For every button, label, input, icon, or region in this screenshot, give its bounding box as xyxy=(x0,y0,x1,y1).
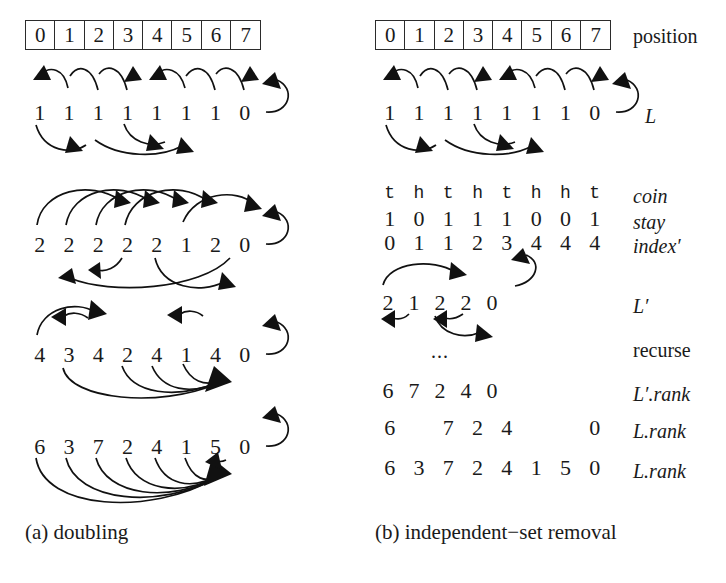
cell-value: 1 xyxy=(171,102,200,124)
label-Lprime: L′ xyxy=(633,296,649,316)
row-L: 1 1 1 1 1 1 1 0 xyxy=(375,100,609,126)
cell-value: 4 xyxy=(142,436,171,458)
position-cell: 6 xyxy=(552,21,581,49)
position-cell: 6 xyxy=(202,21,231,49)
cell-value: 2 xyxy=(142,234,171,256)
cell-value: 1 xyxy=(580,208,609,230)
arrow-group-step0-below xyxy=(36,124,194,154)
cell-value: 4 xyxy=(25,344,54,366)
cell-value: 0 xyxy=(580,417,609,439)
position-cell: 2 xyxy=(435,21,464,49)
cell-value: 1 xyxy=(25,102,54,124)
cell-value: 1 xyxy=(404,232,433,254)
label-coin: coin xyxy=(633,186,667,206)
position-cell: 3 xyxy=(114,21,143,49)
doubling-step-3-row: 6 3 7 2 4 1 5 0 xyxy=(25,434,259,460)
cell-value: 1 xyxy=(113,102,142,124)
cell-value: 0 xyxy=(230,344,259,366)
panel-independent-set-removal: 0 1 2 3 4 5 6 7 position 1 1 1 1 1 1 1 0… xyxy=(363,0,726,583)
cell-value: 5 xyxy=(201,436,230,458)
recurse-ellipsis: ... xyxy=(431,340,449,363)
cell-value: 4 xyxy=(580,232,609,254)
label-L-rank-sparse: L.rank xyxy=(633,421,686,441)
cell-value: 4 xyxy=(492,417,521,439)
cell-value: 3 xyxy=(54,344,83,366)
cell-value: 7 xyxy=(434,417,463,439)
position-cell: 0 xyxy=(376,21,405,49)
cell-value: 0 xyxy=(521,208,550,230)
position-cell: 5 xyxy=(172,21,201,49)
cell-value: 0 xyxy=(551,208,580,230)
cell-value: 2 xyxy=(84,234,113,256)
cell-value: 1 xyxy=(171,436,200,458)
cell-value: 1 xyxy=(375,208,404,230)
cell-value: 2 xyxy=(427,292,453,314)
cell-value: 7 xyxy=(84,436,113,458)
cell-value: 4 xyxy=(492,457,521,479)
label-L: L xyxy=(645,106,656,126)
cell-value: 4 xyxy=(201,344,230,366)
doubling-step-0-row: 1 1 1 1 1 1 1 0 xyxy=(25,100,259,126)
pointer-arrows-a xyxy=(0,0,363,583)
row-Lprime: 2 1 2 2 0 xyxy=(375,290,505,316)
position-strip-b: 0 1 2 3 4 5 6 7 xyxy=(375,20,611,50)
cell-value: 0 xyxy=(479,380,505,402)
position-cell: 4 xyxy=(493,21,522,49)
caption-a: (a) doubling xyxy=(25,520,128,545)
cell-value: 1 xyxy=(201,102,230,124)
cell-value: 7 xyxy=(401,380,427,402)
cell-value: 0 xyxy=(580,102,609,124)
cell-value: 2 xyxy=(54,234,83,256)
position-cell: 4 xyxy=(143,21,172,49)
position-cell: 0 xyxy=(26,21,55,49)
cell-value: 0 xyxy=(230,102,259,124)
row-L-rank-sparse: 6 7 2 4 0 xyxy=(375,415,609,441)
position-cell: 1 xyxy=(55,21,84,49)
cell-value: t xyxy=(434,184,463,202)
cell-value: 2 xyxy=(113,436,142,458)
cell-value: 1 xyxy=(404,102,433,124)
doubling-step-2-row: 4 3 4 2 4 1 4 0 xyxy=(25,342,259,368)
cell-value: 6 xyxy=(375,457,404,479)
cell-value: 1 xyxy=(375,102,404,124)
label-Lprime-rank: L′.rank xyxy=(633,384,690,404)
label-stay: stay xyxy=(633,212,665,232)
cell-value: 1 xyxy=(521,102,550,124)
doubling-step-1-row: 2 2 2 2 2 1 2 0 xyxy=(25,232,259,258)
cell-value: 1 xyxy=(463,102,492,124)
cell-value: 4 xyxy=(551,232,580,254)
cell-value: 1 xyxy=(401,292,427,314)
row-L-rank-full: 6 3 7 2 4 1 5 0 xyxy=(375,455,609,481)
cell-value: 2 xyxy=(375,292,401,314)
cell-value: 1 xyxy=(551,102,580,124)
cell-value: 2 xyxy=(201,234,230,256)
figure-canvas: 0 1 2 3 4 5 6 7 1 1 1 1 1 1 1 0 2 2 2 2 … xyxy=(0,0,726,583)
cell-value: h xyxy=(521,184,550,202)
position-cell: 5 xyxy=(522,21,551,49)
cell-value: 0 xyxy=(230,234,259,256)
cell-value: 6 xyxy=(375,417,404,439)
cell-value: h xyxy=(463,184,492,202)
cell-value: t xyxy=(492,184,521,202)
cell-value: t xyxy=(375,184,404,202)
cell-value: t xyxy=(580,184,609,202)
position-cell: 7 xyxy=(581,21,610,49)
cell-value: 6 xyxy=(375,380,401,402)
cell-value: 3 xyxy=(404,457,433,479)
cell-value: 0 xyxy=(230,436,259,458)
cell-value: 1 xyxy=(521,457,550,479)
cell-value: 0 xyxy=(404,208,433,230)
cell-value: 1 xyxy=(434,232,463,254)
label-position: position xyxy=(633,26,697,46)
cell-value: 4 xyxy=(521,232,550,254)
position-cell: 7 xyxy=(231,21,260,49)
cell-value: 0 xyxy=(375,232,404,254)
cell-value: 4 xyxy=(142,344,171,366)
cell-value: 0 xyxy=(580,457,609,479)
position-strip-a: 0 1 2 3 4 5 6 7 xyxy=(25,20,261,50)
cell-value: 1 xyxy=(54,102,83,124)
cell-value: 7 xyxy=(434,457,463,479)
arrow-group-step2-below xyxy=(63,364,232,398)
cell-value: 3 xyxy=(54,436,83,458)
label-L-rank-full: L.rank xyxy=(633,461,686,481)
